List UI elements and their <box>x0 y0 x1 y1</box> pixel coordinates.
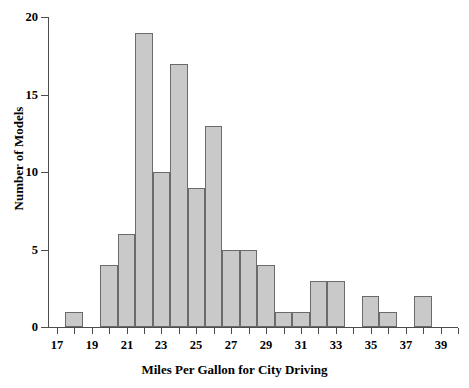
histogram-bar <box>118 234 135 327</box>
x-axis-tick-label: 31 <box>286 339 316 352</box>
histogram-bar <box>100 265 117 327</box>
y-axis-tick <box>41 327 48 328</box>
histogram-bar <box>170 64 187 328</box>
x-axis-tick <box>371 328 372 334</box>
histogram-bar <box>310 281 327 328</box>
histogram-bar <box>292 312 309 328</box>
y-axis-tick <box>41 95 48 96</box>
x-axis-tick <box>92 328 93 334</box>
x-axis-tick-label: 21 <box>112 339 142 352</box>
histogram-bar <box>135 33 152 328</box>
histogram-bar <box>362 296 379 327</box>
x-axis-tick-label: 35 <box>356 339 386 352</box>
x-axis-tick-label: 27 <box>216 339 246 352</box>
x-axis-tick-label: 17 <box>42 339 72 352</box>
x-axis-tick <box>441 328 442 334</box>
x-axis-tick <box>57 328 58 334</box>
x-axis-tick-label: 29 <box>251 339 281 352</box>
x-axis-tick <box>406 328 407 334</box>
y-axis-tick <box>41 250 48 251</box>
x-axis-tick <box>336 328 337 334</box>
x-axis-tick <box>249 328 250 334</box>
x-axis-tick <box>127 328 128 334</box>
x-axis-tick <box>284 328 285 334</box>
x-axis-tick <box>161 328 162 334</box>
x-axis-tick <box>196 328 197 334</box>
y-axis-line <box>48 17 49 328</box>
x-axis-tick <box>458 328 459 334</box>
histogram-bar <box>205 126 222 328</box>
histogram-bar <box>65 312 82 328</box>
histogram-bar <box>275 312 292 328</box>
x-axis-tick-label: 39 <box>426 339 456 352</box>
x-axis-tick-label: 23 <box>146 339 176 352</box>
x-axis-tick <box>423 328 424 334</box>
histogram-bar <box>414 296 431 327</box>
x-axis-tick <box>74 328 75 334</box>
x-axis-tick <box>388 328 389 334</box>
x-axis-tick <box>144 328 145 334</box>
x-axis-tick <box>214 328 215 334</box>
histogram-bar <box>327 281 344 328</box>
x-axis-tick <box>353 328 354 334</box>
histogram-bar <box>257 265 274 327</box>
y-axis-tick <box>41 172 48 173</box>
y-axis-tick-label: 20 <box>0 11 38 24</box>
x-axis-tick <box>301 328 302 334</box>
x-axis-tick-label: 33 <box>321 339 351 352</box>
x-axis-tick-label: 25 <box>181 339 211 352</box>
x-axis-tick <box>266 328 267 334</box>
x-axis-tick <box>179 328 180 334</box>
histogram-bar <box>240 250 257 328</box>
histogram-bar <box>379 312 396 328</box>
x-axis-tick-label: 37 <box>391 339 421 352</box>
histogram-bar <box>188 188 205 328</box>
x-axis-tick <box>231 328 232 334</box>
histogram-chart: 05101520 171921232527293133353739 Miles … <box>0 0 469 388</box>
histogram-bar <box>222 250 239 328</box>
x-axis-title: Miles Per Gallon for City Driving <box>0 363 469 376</box>
y-axis-title: Number of Models <box>12 64 25 254</box>
histogram-bar <box>153 172 170 327</box>
x-axis-tick <box>109 328 110 334</box>
y-axis-tick <box>41 17 48 18</box>
x-axis-tick-label: 19 <box>77 339 107 352</box>
y-axis-tick-label: 0 <box>0 321 38 334</box>
x-axis-tick <box>318 328 319 334</box>
